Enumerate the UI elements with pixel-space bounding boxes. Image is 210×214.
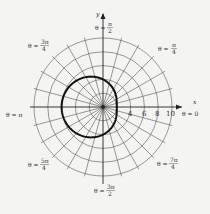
grid-radial-line (52, 107, 103, 158)
polar-plot: y x 4 6 8 10 θ = 0 θ = π θ = π 2 θ = π 4… (0, 0, 210, 214)
y-axis-label: y (95, 10, 100, 18)
svg-text:θ =: θ = (94, 187, 105, 194)
r-tick-4: 4 (128, 110, 133, 118)
svg-text:θ =: θ = (95, 24, 106, 31)
angle-label-pi-over-2: θ = π 2 (95, 20, 113, 34)
svg-text:θ =: θ = (28, 42, 39, 49)
angle-label-3pi-over-2: θ = 3π 2 (94, 183, 115, 197)
svg-text:4: 4 (171, 163, 175, 170)
svg-text:4: 4 (172, 48, 176, 55)
origin-point (101, 105, 105, 109)
svg-text:θ =: θ = (158, 45, 169, 52)
r-tick-10: 10 (166, 110, 175, 118)
angle-label-pi: θ = π (6, 111, 22, 118)
angle-label-0: θ = 0 (182, 110, 198, 117)
angle-label-3pi-over-4: θ = 3π 4 (28, 38, 49, 52)
svg-text:4: 4 (42, 45, 46, 52)
grid-radial-line (67, 107, 103, 169)
grid-radial-line (52, 56, 103, 107)
svg-text:3π: 3π (107, 183, 115, 190)
svg-text:3π: 3π (41, 38, 49, 45)
y-axis-arrow-icon (101, 13, 106, 19)
grid-radial-line (103, 56, 154, 107)
grid-radial-line (103, 107, 139, 169)
svg-text:4: 4 (42, 164, 46, 171)
r-tick-8: 8 (155, 110, 159, 118)
grid-radial-line (67, 45, 103, 107)
grid-radial-line (103, 45, 139, 107)
svg-text:7π: 7π (170, 156, 178, 163)
svg-text:θ =: θ = (157, 160, 168, 167)
angle-label-5pi-over-4: θ = 5π 4 (28, 157, 49, 171)
svg-text:2: 2 (108, 27, 112, 34)
svg-text:π: π (172, 41, 176, 48)
svg-text:2: 2 (108, 190, 112, 197)
angle-label-7pi-over-4: θ = 7π 4 (157, 156, 178, 170)
r-tick-6: 6 (142, 110, 147, 118)
svg-text:5π: 5π (41, 157, 49, 164)
x-axis-label: x (193, 98, 197, 105)
x-axis-arrow-icon (176, 105, 182, 110)
angle-label-pi-over-4: θ = π 4 (158, 41, 177, 55)
svg-text:θ =: θ = (28, 161, 39, 168)
svg-text:π: π (108, 20, 112, 27)
